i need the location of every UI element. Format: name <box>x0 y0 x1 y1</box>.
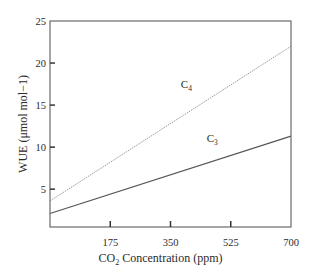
series-label-c4: C4 <box>181 78 192 93</box>
x-axis-ticks: 175350525700 <box>102 221 299 248</box>
x-tick-label: 700 <box>283 237 299 248</box>
x-axis-title: CO2 Concentration (ppm) <box>99 251 223 267</box>
y-axis-title: WUE (μmol mol−1) <box>16 75 30 173</box>
y-axis-ticks: 510152025 <box>36 16 56 195</box>
x-tick-label: 525 <box>223 237 239 248</box>
series-line-c3 <box>50 136 291 213</box>
x-tick-label: 350 <box>163 237 179 248</box>
y-tick-label: 25 <box>36 16 47 27</box>
series-labels: C4C3 <box>181 78 218 147</box>
series-label-c3: C3 <box>207 132 218 147</box>
series-line-c4 <box>50 46 291 201</box>
y-tick-label: 20 <box>36 58 47 69</box>
chart-canvas: 510152025 175350525700 C4C3 CO2 Concentr… <box>0 0 311 276</box>
y-tick-label: 15 <box>36 100 47 111</box>
wue-co2-line-chart: 510152025 175350525700 C4C3 CO2 Concentr… <box>0 0 311 276</box>
y-tick-label: 5 <box>41 184 46 195</box>
y-tick-label: 10 <box>36 142 47 153</box>
series-layer <box>50 46 291 213</box>
x-tick-label: 175 <box>102 237 118 248</box>
